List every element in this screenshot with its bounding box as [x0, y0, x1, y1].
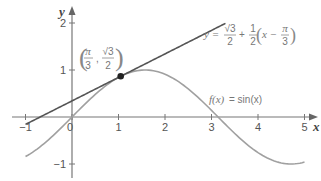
frac-3: 3 — [85, 60, 91, 71]
curve-equation-label: f(x) = sin(x) — [209, 93, 262, 106]
point-label: ( π 3 , √3 2 ) — [79, 43, 124, 72]
svg-text:π: π — [282, 22, 288, 34]
frac-2: 2 — [105, 60, 111, 71]
curve-eq: = sin(x) — [229, 94, 262, 105]
x-tick-label: 0 — [67, 121, 73, 133]
y-axis-label: y — [57, 4, 65, 19]
svg-text:2: 2 — [227, 36, 233, 47]
x-tick-label: 1 — [115, 121, 121, 133]
frac-sqrt3: √3 — [102, 46, 113, 57]
tangent-y: y = — [203, 28, 219, 40]
x-tick-label: 5 — [301, 121, 307, 133]
svg-text:√3: √3 — [224, 23, 235, 34]
svg-text:x −: x − — [261, 28, 277, 40]
svg-text:+: + — [239, 29, 245, 40]
svg-text:): ) — [115, 43, 124, 72]
x-axis-label: x — [312, 119, 320, 134]
frac-pi: π — [85, 45, 91, 57]
y-axis-arrow-icon — [69, 6, 76, 15]
x-tick-label: 3 — [208, 121, 214, 133]
svg-text:3: 3 — [282, 36, 288, 47]
y-tick-label: −1 — [53, 158, 66, 170]
y-tick-label: 1 — [60, 64, 66, 76]
chart-canvas: −1012345 −112 x y ( π 3 , √3 2 ) y = √3 … — [0, 0, 321, 181]
curve-fx: f(x) — [209, 93, 225, 106]
svg-text:): ) — [290, 25, 296, 46]
svg-text:,: , — [96, 53, 99, 64]
tangent-equation-label: y = √3 2 + 1 2 ( x − π 3 ) — [203, 22, 296, 47]
tangent-point — [117, 73, 124, 80]
x-tick-label: 4 — [255, 121, 261, 133]
tangent-line — [26, 23, 226, 124]
x-tick-label: 2 — [162, 121, 168, 133]
